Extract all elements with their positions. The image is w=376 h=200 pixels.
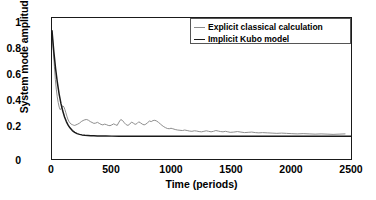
figure-chart: System mode amplitude 1 0.8 0.6 0.4 0.2 … [0, 0, 376, 200]
legend-label-1: Implicit Kubo model [208, 35, 289, 44]
legend-item-implicit-kubo-model: Implicit Kubo model [194, 34, 347, 45]
legend-item-explicit-classical-calculation: Explicit classical calculation [194, 22, 347, 33]
x-tick-label-2500: 2500 [328, 163, 374, 175]
y-tick-label-0: 0 [0, 155, 21, 165]
x-tick-label-1000: 1000 [148, 163, 194, 175]
legend-swatch-icon-1 [194, 39, 205, 40]
y-tick-label-0-2: 0.2 [0, 121, 21, 131]
y-tick-label-1: 1 [0, 17, 21, 27]
legend-label-0: Explicit classical calculation [208, 23, 323, 32]
legend: Explicit classical calculation Implicit … [190, 18, 351, 44]
x-tick-label-1500: 1500 [208, 163, 254, 175]
series-line-explicit-classical-calculation [52, 31, 345, 135]
legend-swatch-icon-0 [194, 27, 205, 28]
y-tick-label-0-8: 0.8 [0, 43, 21, 53]
y-tick-label-0-6: 0.6 [0, 69, 21, 79]
y-tick-label-0-4: 0.4 [0, 95, 21, 105]
series-line-implicit-kubo-model [52, 31, 351, 136]
x-tick-label-0: 0 [28, 163, 74, 175]
x-tick-label-2000: 2000 [268, 163, 314, 175]
x-axis-label: Time (periods) [51, 178, 352, 190]
x-tick-label-500: 500 [88, 163, 134, 175]
